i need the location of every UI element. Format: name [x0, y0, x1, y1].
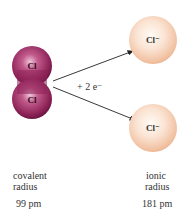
cl-atom-top-label: Cl — [28, 61, 37, 71]
covalent-caption-line2: radius — [13, 181, 37, 192]
arrow-up-icon — [53, 51, 133, 81]
cl2-molecule: Cl Cl — [12, 46, 52, 119]
cl-ion-top-label: Cl⁻ — [146, 35, 160, 45]
covalent-radius-value: 99 pm — [16, 198, 41, 209]
cl-ion-bottom: Cl⁻ — [129, 104, 177, 152]
cl-ion-bottom-label: Cl⁻ — [146, 123, 160, 133]
covalent-caption-line1: covalent — [13, 170, 47, 181]
ionic-radius-value: 181 pm — [142, 198, 172, 209]
ionic-caption-line1: ionic — [146, 170, 166, 181]
electron-gain-label: + 2 e⁻ — [77, 81, 102, 92]
ionic-caption-line2: radius — [145, 181, 169, 192]
cl-atom-bottom-label: Cl — [28, 95, 37, 105]
cl-ion-top: Cl⁻ — [129, 16, 177, 64]
